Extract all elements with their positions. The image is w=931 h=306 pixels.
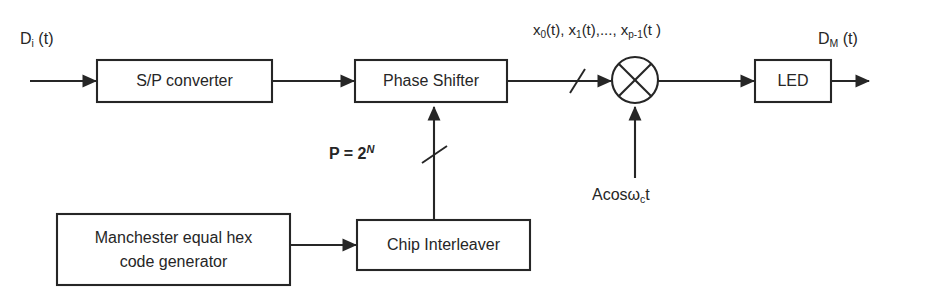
stream-tail: (t ) [643, 21, 661, 38]
input-signal-subscript: i [32, 37, 34, 49]
label-carrier: Acosωct [592, 186, 650, 204]
box-led-shape [755, 60, 831, 102]
box-sp-converter-shape [97, 60, 272, 102]
p-equation-base: P = 2 [329, 145, 367, 162]
box-chip-interleaver-shape [357, 220, 530, 270]
stream-separator-1: (t), x [546, 21, 576, 38]
diagram-canvas [0, 0, 931, 306]
carrier-amplitude-cos: Acos [592, 186, 628, 203]
box-manchester-shape [57, 214, 290, 285]
label-p-equation: P = 2N [329, 145, 374, 163]
output-signal-base: D [818, 30, 830, 47]
p-equation-exponent: N [367, 143, 375, 155]
output-signal-tail: (t) [838, 30, 858, 47]
label-output-signal: DM (t) [818, 30, 858, 48]
stream-x0-base: x [533, 21, 541, 38]
box-phase-shifter-shape [355, 60, 507, 102]
stream-xp-subscript: p-1 [628, 29, 642, 40]
stream-x1-subscript: 1 [576, 29, 582, 40]
carrier-subscript: c [640, 193, 645, 205]
carrier-omega-symbol: ω [628, 186, 641, 203]
label-input-signal: Di (t) [20, 30, 53, 48]
output-signal-subscript: M [830, 37, 839, 49]
carrier-time-variable: t [645, 186, 649, 203]
stream-separator-2: (t),..., x [582, 21, 629, 38]
label-parallel-streams: x0(t), x1(t),..., xp-1(t ) [533, 21, 661, 38]
input-signal-tail: (t) [34, 30, 54, 47]
stream-x0-subscript: 0 [541, 29, 547, 40]
input-signal-base: D [20, 30, 32, 47]
block-diagram-figure: S/P converter Phase Shifter LED Manchest… [0, 0, 931, 306]
